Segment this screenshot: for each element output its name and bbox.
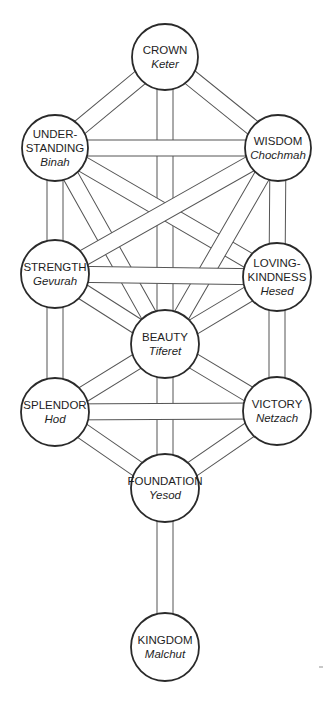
sefira-english-name-cont: STANDING <box>26 142 85 154</box>
stray-mark <box>319 666 323 668</box>
sefira-english-name: UNDER- <box>33 128 78 140</box>
sefira-hebrew-name: Yesod <box>149 489 182 501</box>
sefira-english-name: SPLENDOR <box>23 399 86 411</box>
sefira-beauty: BEAUTYTiferet <box>131 310 199 378</box>
sefira-english-name: LOVING- <box>253 257 300 269</box>
sefira-splendor: SPLENDORHod <box>21 378 89 446</box>
sefira-english-name: VICTORY <box>252 398 303 410</box>
sefira-circle <box>245 115 311 181</box>
sefira-hebrew-name: Hod <box>44 413 66 425</box>
sefira-circle <box>131 454 199 522</box>
sefira-english-name: CROWN <box>143 44 188 56</box>
sefira-english-name: BEAUTY <box>142 331 188 343</box>
sefira-english-name: STRENGTH <box>23 261 86 273</box>
sefira-hebrew-name: Tiferet <box>149 345 182 357</box>
sefira-victory: VICTORYNetzach <box>243 377 311 445</box>
sefira-hebrew-name: Binah <box>40 156 69 168</box>
sefira-hebrew-name: Chochmah <box>250 149 306 161</box>
sefira-circle <box>21 240 89 308</box>
sefira-hebrew-name: Hesed <box>260 285 294 297</box>
sefira-strength: STRENGTHGevurah <box>21 240 89 308</box>
sefira-hebrew-name: Netzach <box>256 412 298 424</box>
sefira-circle <box>131 310 199 378</box>
sefira-hebrew-name: Malchut <box>145 648 186 660</box>
sefira-english-name: WISDOM <box>254 135 303 147</box>
sefira-circle <box>243 377 311 445</box>
sefira-understanding: UNDER-STANDINGBinah <box>22 115 88 181</box>
sefira-wisdom: WISDOMChochmah <box>245 115 311 181</box>
sefira-kingdom: KINGDOMMalchut <box>131 613 199 681</box>
tree-of-life-diagram: CROWNKeterUNDER-STANDINGBinahWISDOMChoch… <box>0 0 330 709</box>
sefira-circle <box>132 24 198 90</box>
sefira-hebrew-name: Keter <box>151 58 180 70</box>
sefira-circle <box>131 613 199 681</box>
sefira-english-name-cont: KINDNESS <box>248 271 307 283</box>
sefira-hebrew-name: Gevurah <box>33 275 77 287</box>
sefira-circle <box>21 378 89 446</box>
sefira-english-name: FOUNDATION <box>127 475 202 487</box>
sefira-crown: CROWNKeter <box>132 24 198 90</box>
sefira-loving-kindness: LOVING-KINDNESSHesed <box>243 243 311 311</box>
sefira-english-name: KINGDOM <box>138 634 193 646</box>
